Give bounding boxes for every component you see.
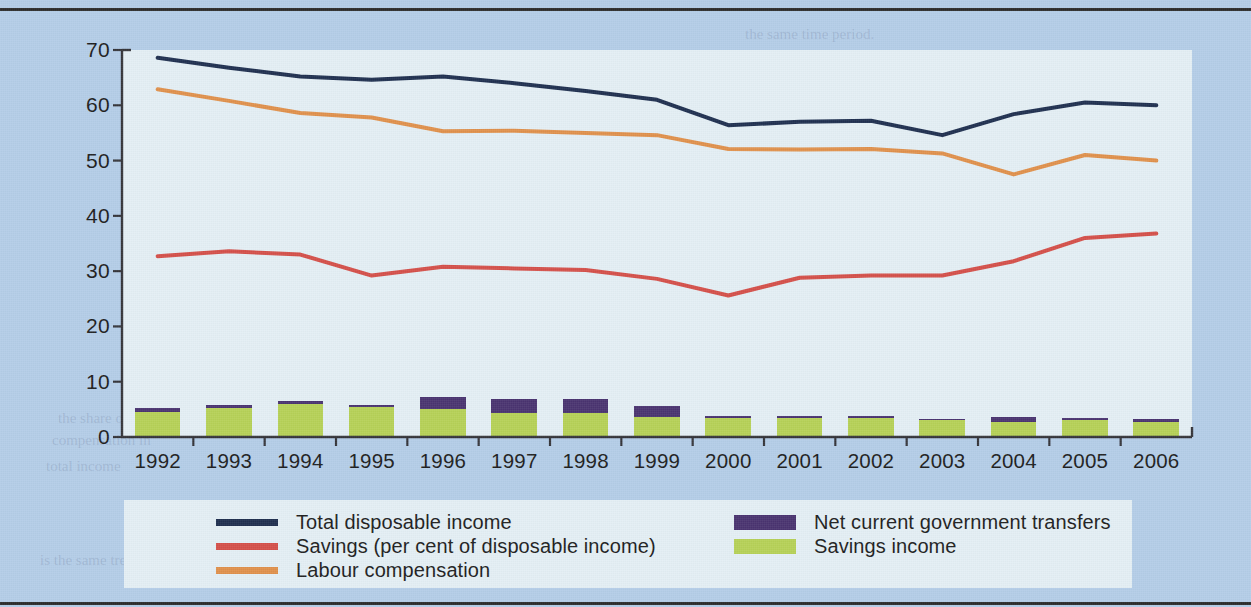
x-axis-tick-label: 2000 <box>693 449 764 479</box>
y-axis-tick-label: 10 <box>58 370 110 394</box>
x-axis-tick-label: 2005 <box>1049 449 1120 479</box>
legend-swatch-icon <box>734 539 796 554</box>
x-axis-tick-label: 1998 <box>550 449 621 479</box>
legend-item: Labour compensation <box>216 559 656 582</box>
legend-label: Total disposable income <box>296 511 512 534</box>
legend-item: Net current government transfers <box>734 511 1111 534</box>
chart-legend: Total disposable incomeSavings (per cent… <box>124 500 1132 588</box>
line-series-savings-per-cent-of-disposable-income <box>158 234 1157 296</box>
line-series-total-disposable-income <box>158 58 1157 135</box>
legend-label: Savings income <box>814 535 957 558</box>
legend-item: Savings income <box>734 535 1111 558</box>
x-axis-tick-labels: 1992199319941995199619971998199920002001… <box>122 449 1192 479</box>
y-axis-tick-labels: 010203040506070 <box>48 0 110 607</box>
x-axis-tick-label: 2006 <box>1121 449 1192 479</box>
x-axis-tick-label: 1992 <box>122 449 193 479</box>
x-axis-tick-label: 2002 <box>835 449 906 479</box>
legend-swatch-icon <box>216 567 278 574</box>
line-series-layer <box>158 58 1157 296</box>
y-axis-tick-label: 60 <box>58 93 110 117</box>
legend-swatch-icon <box>216 543 278 550</box>
line-series-labour-compensation <box>158 89 1157 174</box>
legend-swatch-icon <box>734 515 796 530</box>
legend-item: Savings (per cent of disposable income) <box>216 535 656 558</box>
legend-label: Savings (per cent of disposable income) <box>296 535 656 558</box>
legend-label: Labour compensation <box>296 559 490 582</box>
x-axis-tick-label: 1999 <box>621 449 692 479</box>
legend-column-left: Total disposable incomeSavings (per cent… <box>216 511 656 583</box>
x-axis-tick-label: 1995 <box>336 449 407 479</box>
x-axis-tick-label: 2003 <box>907 449 978 479</box>
legend-column-right: Net current government transfersSavings … <box>734 511 1111 559</box>
x-axis-tick-label: 1996 <box>407 449 478 479</box>
legend-label: Net current government transfers <box>814 511 1111 534</box>
y-axis-tick-label: 50 <box>58 149 110 173</box>
y-axis-tick-label: 70 <box>58 38 110 62</box>
x-axis-tick-label: 2001 <box>764 449 835 479</box>
chart-figure: the same time period.in household saving… <box>0 0 1251 607</box>
y-axis-tick-label: 40 <box>58 204 110 228</box>
legend-swatch-icon <box>216 519 278 526</box>
x-axis-tick-label: 1997 <box>479 449 550 479</box>
y-axis-tick-label: 30 <box>58 259 110 283</box>
tick-marks <box>113 50 1121 446</box>
y-axis-tick-label: 20 <box>58 314 110 338</box>
legend-item: Total disposable income <box>216 511 656 534</box>
y-axis-tick-label: 0 <box>58 425 110 449</box>
x-axis-tick-label: 1994 <box>265 449 336 479</box>
x-axis-tick-label: 1993 <box>193 449 264 479</box>
x-axis-tick-label: 2004 <box>978 449 1049 479</box>
